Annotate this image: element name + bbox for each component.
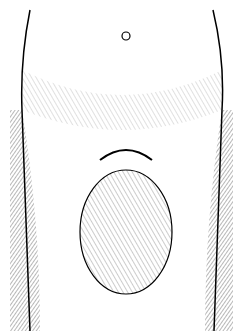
engraving-plate (0, 0, 243, 331)
engraving-illustration (0, 0, 243, 331)
